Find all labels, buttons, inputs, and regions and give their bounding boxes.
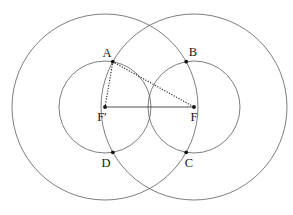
point-b-label: B (189, 45, 197, 59)
point-d-dot (111, 150, 115, 154)
point-a-label: A (102, 46, 111, 60)
dotted-segment-a-fprime (105, 62, 113, 107)
point-d-label: D (101, 156, 110, 170)
point-a-dot (111, 60, 115, 64)
point-fprime-dot (103, 105, 107, 109)
point-f-dot (192, 105, 196, 109)
point-f-label: F (191, 110, 198, 124)
two-circles-construction-figure: A B C D F′ F (0, 0, 293, 215)
point-c-dot (184, 150, 188, 154)
dotted-segment-a-f (113, 62, 194, 107)
point-b-dot (184, 60, 188, 64)
point-fprime-label: F′ (97, 110, 107, 124)
point-c-label: C (185, 156, 193, 170)
geometry-diagram: A B C D F′ F (0, 0, 293, 215)
